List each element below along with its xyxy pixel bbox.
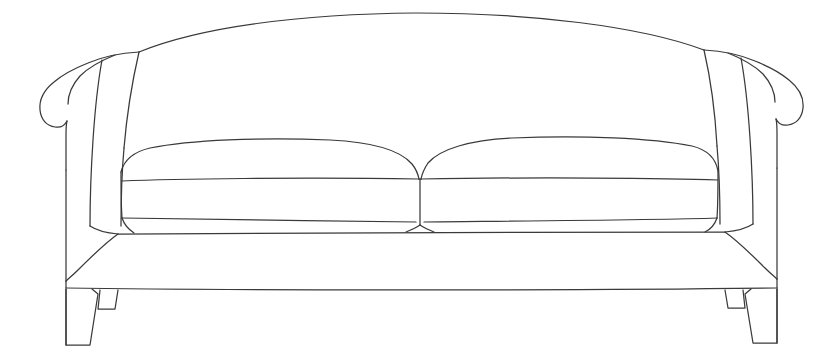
sofa-illustration	[0, 0, 831, 361]
sofa-line-drawing	[0, 0, 831, 361]
